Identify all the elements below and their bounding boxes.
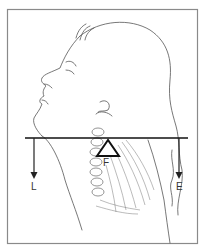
figure-frame (8, 10, 198, 244)
effort-arrow-icon (176, 138, 183, 179)
head-sketch (34, 22, 183, 243)
load-label: L (31, 182, 37, 192)
fulcrum-label: F (103, 158, 109, 168)
effort-label: E (176, 182, 183, 192)
diagram-canvas (0, 0, 205, 252)
fulcrum-triangle-icon (97, 140, 119, 156)
load-arrow-icon (31, 138, 38, 179)
